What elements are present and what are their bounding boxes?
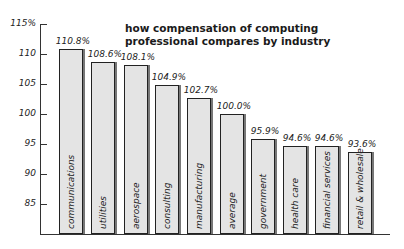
bar-value-label: 110.8% <box>53 36 93 46</box>
x-axis-line <box>40 234 390 235</box>
bar-value-label: 104.9% <box>149 72 189 82</box>
bar-value-label: 102.7% <box>181 85 221 95</box>
bar: health care <box>283 146 307 234</box>
y-tick <box>40 114 47 115</box>
bar-value-label: 108.1% <box>118 52 158 62</box>
y-tick <box>40 24 47 25</box>
bar: aerospace <box>124 65 148 234</box>
bar-category-label: financial services <box>322 151 332 229</box>
y-axis-line <box>40 24 41 234</box>
y-tick-label: 100 <box>19 108 36 118</box>
y-tick-label: 95 <box>25 138 36 148</box>
chart-title: how compensation of computing profession… <box>125 22 330 48</box>
chart-title-line-1: how compensation of computing <box>125 22 330 35</box>
y-tick-label: 85 <box>25 198 36 208</box>
bar: utilities <box>91 62 115 234</box>
y-tick-label: 115% <box>10 18 36 28</box>
bar-value-label: 93.6% <box>342 139 382 149</box>
y-tick-label: 90 <box>25 168 36 178</box>
bar: communications <box>59 49 83 234</box>
y-tick <box>40 54 47 55</box>
bar-category-label: health care <box>290 178 300 229</box>
bar-value-label: 100.0% <box>214 101 254 111</box>
chart-title-line-2: professional compares by industry <box>125 35 330 48</box>
bar-category-label: aerospace <box>131 182 141 229</box>
y-tick <box>40 204 47 205</box>
bar-category-label: average <box>227 192 237 229</box>
bar: manufacturing <box>187 98 211 234</box>
bar: government <box>251 139 275 234</box>
y-tick-label: 105 <box>19 78 36 88</box>
bar-category-label: consulting <box>162 183 172 230</box>
y-tick <box>40 144 47 145</box>
bar-category-label: government <box>258 174 268 229</box>
bar: retail & wholesale <box>348 152 372 234</box>
y-tick <box>40 174 47 175</box>
bar-category-label: manufacturing <box>194 163 204 229</box>
y-tick-label: 110 <box>19 48 36 58</box>
bar: average <box>220 114 244 234</box>
bar-category-label: utilities <box>98 196 108 229</box>
bar: consulting <box>155 85 179 234</box>
bar: financial services <box>315 146 339 234</box>
y-tick <box>40 84 47 85</box>
bar-chart: how compensation of computing profession… <box>0 0 404 249</box>
bar-category-label: communications <box>66 155 76 229</box>
bar-category-label: retail & wholesale <box>355 148 365 229</box>
